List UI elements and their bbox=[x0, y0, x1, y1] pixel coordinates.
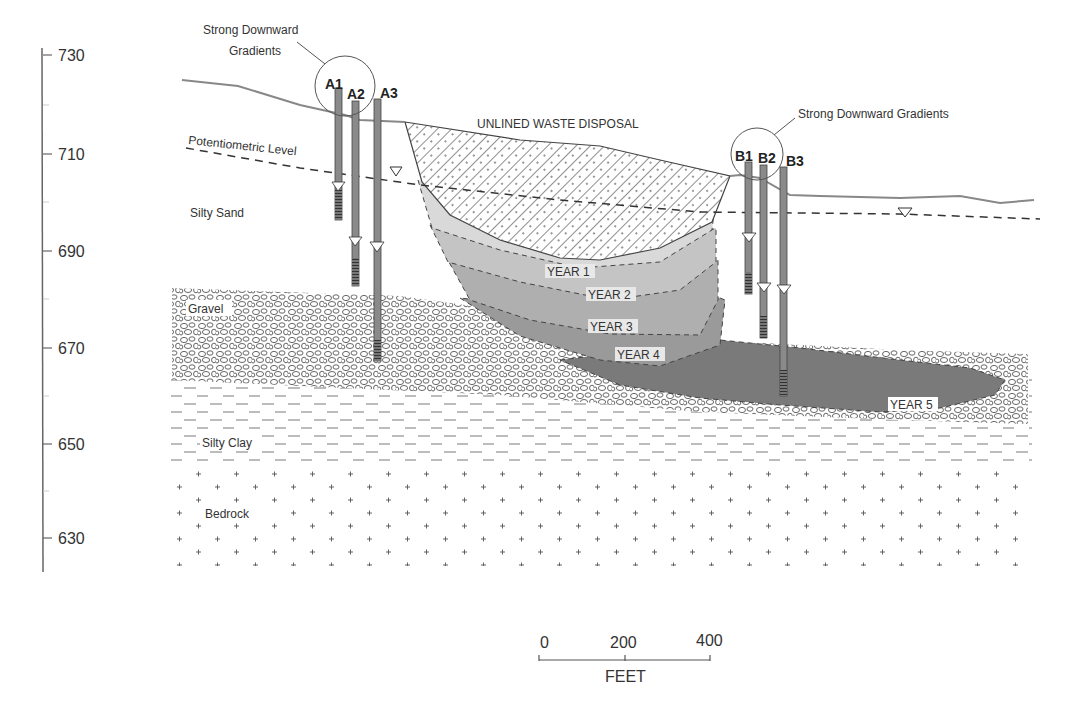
scale-label-0: 0 bbox=[540, 634, 549, 651]
silty-clay-label: Silty Clay bbox=[202, 436, 252, 450]
bedrock-layer bbox=[170, 466, 1032, 566]
gravel-label: Gravel bbox=[188, 302, 223, 316]
axis-tick-label: 710 bbox=[58, 146, 85, 163]
water-table-marker-b bbox=[898, 208, 912, 217]
axis-tick-label: 670 bbox=[58, 340, 85, 357]
scale-label-400: 400 bbox=[696, 632, 723, 649]
axis-tick-label: 690 bbox=[58, 243, 85, 260]
scale-unit-label: FEET bbox=[605, 668, 646, 685]
water-table-marker-a bbox=[390, 167, 402, 176]
scale-bar bbox=[539, 655, 710, 661]
well-b2 bbox=[757, 165, 771, 338]
axis-tick-label: 630 bbox=[58, 530, 85, 547]
year-4-label: YEAR 4 bbox=[617, 348, 660, 362]
well-b1-label: B1 bbox=[735, 148, 753, 164]
axis-tick-label: 730 bbox=[58, 47, 85, 64]
gradient-a-label-line1: Strong Downward bbox=[203, 23, 298, 37]
well-a1-label: A1 bbox=[325, 76, 343, 92]
gradient-circle-a bbox=[315, 56, 375, 116]
axis-tick-label: 650 bbox=[58, 436, 85, 453]
waste-disposal-label: UNLINED WASTE DISPOSAL bbox=[477, 117, 639, 131]
cross-section-diagram: 730710690670650630 bbox=[0, 0, 1066, 713]
well-b2-label: B2 bbox=[758, 150, 776, 166]
well-a2-label: A2 bbox=[347, 86, 365, 102]
well-a1 bbox=[332, 88, 345, 220]
year-3-label: YEAR 3 bbox=[590, 320, 633, 334]
silty-sand-label: Silty Sand bbox=[190, 206, 244, 220]
year-2-label: YEAR 2 bbox=[588, 288, 631, 302]
well-a3-label: A3 bbox=[380, 85, 398, 101]
well-b1 bbox=[742, 162, 756, 294]
scale-label-200: 200 bbox=[610, 634, 637, 651]
bedrock-label: Bedrock bbox=[205, 507, 250, 521]
well-b3-label: B3 bbox=[786, 153, 804, 169]
gradient-b-label: Strong Downward Gradients bbox=[798, 107, 949, 121]
potentiometric-level-label: Potentiometric Level bbox=[188, 133, 298, 158]
year-5-label: YEAR 5 bbox=[890, 398, 933, 412]
elevation-axis: 730710690670650630 bbox=[42, 47, 85, 572]
well-a2 bbox=[349, 101, 362, 286]
gradient-a-label-line2: Gradients bbox=[229, 44, 281, 58]
year-1-label: YEAR 1 bbox=[547, 265, 590, 279]
